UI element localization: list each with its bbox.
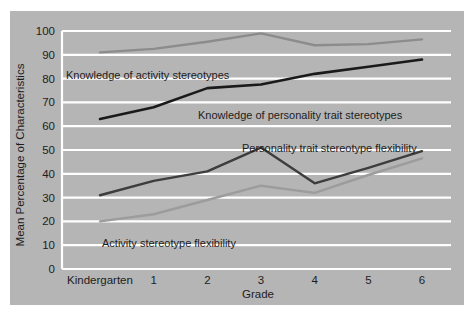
series-line [100,33,422,52]
y-tick-label: 0 [49,263,55,275]
y-tick-label: 40 [42,168,55,180]
series-line [100,158,422,221]
y-tick-label: 80 [42,73,55,85]
y-tick-label: 30 [42,192,55,204]
y-tick-label: 60 [42,120,55,132]
series-label: Activity stereotype flexibility [102,237,236,249]
x-tick-label: 1 [150,274,156,286]
x-tick-label: 5 [365,274,371,286]
y-tick-label: 10 [42,239,55,251]
x-tick-label: 6 [419,274,425,286]
x-tick-label: 2 [204,274,210,286]
chart-figure: 0102030405060708090100 Kindergarten12345… [10,11,464,305]
y-tick-label: 100 [36,25,55,37]
y-tick-label: 70 [42,96,55,108]
series-label: Personality trait stereotype flexibility [242,142,417,154]
x-tick-label: Kindergarten [67,274,133,286]
y-tick-label: 50 [42,144,55,156]
x-axis-tick-labels: Kindergarten123456 [67,274,425,286]
x-tick-label: 3 [258,274,264,286]
data-series-lines [100,33,422,221]
x-tick-label: 4 [311,274,318,286]
series-label: Knowledge of personality trait stereotyp… [198,109,403,121]
line-chart: 0102030405060708090100 Kindergarten12345… [10,11,464,305]
y-tick-label: 90 [42,49,55,61]
series-label: Knowledge of activity stereotypes [66,69,230,81]
y-axis-tick-labels: 0102030405060708090100 [36,25,55,275]
series-line [100,148,422,196]
y-axis-title: Mean Percentage of Characteristics [14,63,26,246]
y-tick-label: 20 [42,215,55,227]
x-axis-title: Grade [242,288,274,300]
